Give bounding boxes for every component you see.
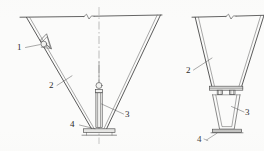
jack-head-knob xyxy=(96,83,102,89)
bracket-base-line xyxy=(41,47,51,48)
callout-label-2-left: 2 xyxy=(49,81,54,90)
hopper-left-wall-outer-right-view xyxy=(195,17,212,87)
callout-label-3-right: 3 xyxy=(245,108,250,117)
jack-cylinder-item3 xyxy=(96,62,103,127)
fastener-group xyxy=(217,90,235,94)
right-elevation-view xyxy=(192,14,264,140)
callout-label-2-right: 2 xyxy=(186,66,191,75)
jack-body-cylinder xyxy=(96,93,102,128)
bracket-roller-circle xyxy=(41,41,47,47)
top-reference-line-right-view-b xyxy=(236,15,264,16)
trapezoid-chute-item3 xyxy=(213,95,240,129)
technical-drawing-svg: .ln { stroke: #3b3b3b; stroke-width: 0.8… xyxy=(0,0,264,151)
base-plate-slab xyxy=(84,129,116,133)
callout-label-1: 1 xyxy=(17,43,22,52)
left-elevation-view xyxy=(20,7,162,144)
callout-label-4-right: 4 xyxy=(197,135,202,144)
hopper-right-wall-inner-right-view xyxy=(239,15,261,86)
hopper-right-wall-outer-right-view xyxy=(242,15,265,87)
fastener-block-left xyxy=(217,90,222,94)
leader-line-4-right xyxy=(207,133,218,140)
leader-line-4-left xyxy=(80,125,96,129)
break-line-symbol-right xyxy=(226,14,236,19)
callout-label-3-left: 3 xyxy=(125,110,130,119)
bracket-assembly-item1 xyxy=(41,34,52,49)
collar-flange-band xyxy=(210,86,243,90)
jack-collar-top xyxy=(96,90,103,93)
callout-label-4-left: 4 xyxy=(70,120,75,129)
hopper-right-wall-outer xyxy=(106,15,160,130)
leader-line-1 xyxy=(26,45,41,48)
break-line-symbol-left xyxy=(84,14,94,19)
top-reference-line-right-view-a xyxy=(192,16,226,17)
chute-inner-profile xyxy=(216,95,237,127)
hopper-left-wall-inner-right-view xyxy=(198,17,214,87)
base-plate-item4-right xyxy=(211,129,243,133)
drawing-canvas: .ln { stroke: #3b3b3b; stroke-width: 0.8… xyxy=(0,0,264,151)
top-reference-line-right xyxy=(94,15,162,16)
hopper-left-wall-outer xyxy=(27,17,93,129)
fastener-block-right xyxy=(230,90,235,94)
hopper-left-wall-inner xyxy=(30,17,95,129)
hopper-right-wall-inner xyxy=(104,15,158,129)
leader-line-3-left xyxy=(102,104,124,114)
